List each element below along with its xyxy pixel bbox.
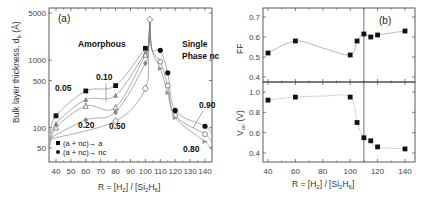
ff-data-point	[362, 32, 367, 37]
y-tick-label-ff: 0.5	[249, 53, 261, 62]
voc-curve	[268, 95, 405, 149]
x-axis-title-right: R = [H2] / [Si2H6]	[292, 179, 354, 190]
annotation-0-05: 0.05	[55, 83, 72, 93]
annotation-0-10: 0.10	[96, 72, 113, 82]
x-axis-title-left: R = [H2] / [Si2H6]	[98, 182, 160, 193]
leader-0-90	[193, 111, 203, 128]
x-tick-label-b: 120	[371, 167, 385, 176]
ff-data-point	[403, 29, 408, 34]
panel-b: 4060801001201400.40.50.60.70.40.60.81.0 …	[235, 8, 415, 190]
x-tick-label: 90	[126, 167, 135, 176]
ff-data-point	[355, 39, 360, 44]
figure: 4050607080901001101201301405010050010005…	[0, 0, 424, 199]
voc-data-point	[375, 145, 380, 150]
panel-a-label: (a)	[58, 13, 70, 24]
y-tick-label-voc: 1.0	[249, 88, 261, 97]
ff-data-point	[368, 35, 373, 40]
legend-label-nc: (a + nc)→ nc	[63, 148, 106, 157]
y-tick-label-voc: 0.6	[249, 129, 261, 138]
data-point-0.90	[158, 48, 163, 53]
voc-data-point	[362, 135, 367, 140]
annotation-0-90: 0.90	[199, 100, 216, 110]
legend-marker-square	[56, 141, 60, 145]
y-axis-title-voc: Voc (V)	[235, 110, 246, 136]
ff-data-point	[293, 39, 298, 44]
data-point-peak	[147, 16, 153, 23]
x-tick-label-b: 60	[291, 167, 300, 176]
data-point-0.90	[202, 124, 207, 129]
y-tick-label: 500	[33, 77, 47, 86]
voc-data-point	[403, 147, 408, 152]
data-point-0.05	[113, 83, 118, 88]
voc-data-point	[293, 95, 298, 100]
y-tick-label: 50	[37, 144, 46, 153]
y-tick-label: 1000	[28, 56, 46, 65]
x-tick-label: 70	[96, 167, 105, 176]
x-tick-label-b: 100	[344, 167, 358, 176]
data-point-0.90	[173, 108, 178, 113]
x-tick-label-b: 40	[264, 167, 273, 176]
y-tick-label: 5000	[28, 9, 46, 18]
y-tick-label-ff: 0.4	[249, 73, 261, 82]
y-axis-title-left: Bulk layer thickness, db (Å)	[11, 21, 22, 123]
data-point-0.30	[143, 60, 148, 66]
y-tick-label-ff: 0.7	[249, 13, 261, 22]
panel-b-curves	[268, 31, 405, 149]
ff-data-point	[375, 33, 380, 38]
x-tick-label: 50	[66, 167, 75, 176]
x-tick-label-b: 140	[398, 167, 412, 176]
x-tick-label: 100	[139, 167, 153, 176]
curve-0.90	[150, 20, 212, 135]
y-tick-label-voc: 0.8	[249, 108, 261, 117]
data-point-0.50	[143, 85, 149, 92]
legend-label-a: (a + nc)→ a	[63, 139, 103, 148]
y-tick-label: 100	[33, 124, 47, 133]
legend: (a + nc)→ a (a + nc)→ nc	[56, 139, 106, 157]
voc-data-point	[355, 120, 360, 125]
x-tick-label: 60	[81, 167, 90, 176]
x-tick-label-b: 80	[318, 167, 327, 176]
y-tick-label-ff: 0.6	[249, 33, 261, 42]
panel-b-ff-frame	[263, 8, 415, 82]
y-tick-label-voc: 0.4	[249, 149, 261, 158]
y-axis-title-ff: FF	[235, 44, 245, 54]
region-label-single: Single	[182, 39, 208, 49]
data-point-0.05	[83, 89, 88, 94]
x-tick-label: 80	[111, 167, 120, 176]
ff-data-point	[266, 51, 271, 56]
panel-b-label: (b)	[379, 15, 391, 26]
data-point-nc-open	[165, 83, 170, 88]
data-point-0.05	[54, 113, 59, 118]
panel-a: 4050607080901001101201301405010050010005…	[11, 8, 220, 193]
annotation-0-50: 0.50	[109, 121, 126, 131]
data-point-0.10	[83, 97, 88, 102]
panel-b-voc-frame	[263, 82, 415, 162]
data-point-0.10	[113, 93, 118, 98]
x-tick-label: 40	[52, 167, 61, 176]
x-tick-label: 120	[169, 167, 183, 176]
annotation-0-80: 0.80	[183, 144, 200, 154]
annotation-0-20: 0.20	[78, 120, 95, 130]
voc-data-point	[266, 98, 271, 103]
ff-data-point	[348, 53, 353, 58]
x-tick-label: 110	[154, 167, 167, 176]
panel-a-markers	[54, 16, 208, 144]
voc-data-point	[348, 95, 353, 100]
data-point-0.90	[165, 70, 170, 75]
x-tick-label: 130	[183, 167, 197, 176]
region-label-amorphous: Amorphous	[78, 39, 126, 49]
voc-data-point	[368, 138, 373, 143]
ff-curve	[268, 31, 405, 55]
data-point-nc-open	[158, 59, 163, 64]
x-tick-label: 140	[198, 167, 212, 176]
legend-marker-circle	[56, 150, 60, 154]
data-point-nc-open	[203, 132, 208, 137]
region-label-phase-nc: Phase nc	[182, 51, 220, 61]
panel-b-markers	[266, 29, 408, 152]
